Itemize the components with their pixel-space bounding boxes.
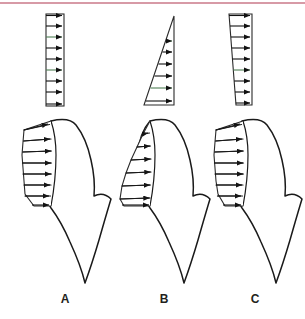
panel-b: B — [120, 16, 210, 306]
triangular-load-envelope — [144, 16, 174, 105]
tooth-with-trapezoidal-load — [214, 120, 302, 283]
load-profile-trapezoidal — [229, 14, 252, 105]
panel-c: C — [214, 14, 302, 306]
figure-root: A — [0, 0, 305, 319]
tooth-with-triangular-load — [120, 120, 210, 283]
tooth-with-uniform-load — [22, 120, 111, 283]
panel-label-a: A — [61, 292, 70, 306]
load-profile-triangular — [144, 16, 174, 105]
load-distribution-figure: A — [0, 0, 305, 319]
panel-label-b: B — [160, 292, 169, 306]
panel-a: A — [22, 14, 111, 306]
panel-label-c: C — [251, 292, 260, 306]
load-profile-uniform — [46, 14, 64, 106]
